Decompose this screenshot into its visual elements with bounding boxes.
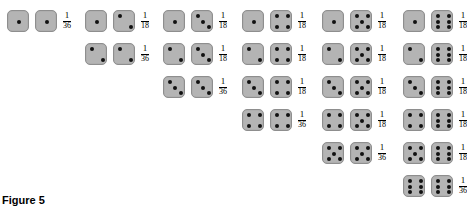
dice-outcome-row: 136: [322, 141, 386, 164]
die-face-1: [85, 10, 107, 32]
fraction-numerator: 1: [459, 110, 467, 121]
probability-fraction: 118: [378, 110, 386, 129]
fraction-denominator: 18: [378, 88, 386, 97]
die-pip: [247, 80, 251, 84]
die-pip: [366, 47, 370, 51]
dice-outcome-row: 118: [242, 9, 306, 32]
dice-outcome-row: 118: [403, 42, 467, 65]
probability-fraction: 136: [459, 176, 467, 195]
fraction-denominator: 18: [459, 154, 467, 163]
die-pip: [286, 80, 290, 84]
die-face-4: [270, 109, 292, 131]
die-pip: [286, 47, 290, 51]
fraction-denominator: 18: [459, 22, 467, 31]
fraction-numerator: 1: [378, 11, 386, 22]
dice-outcome-row: 118: [242, 42, 306, 65]
fraction-numerator: 1: [378, 44, 386, 55]
die-face-3: [191, 76, 213, 98]
die-pip: [252, 20, 256, 24]
die-pip: [179, 58, 183, 62]
fraction-numerator: 1: [141, 11, 149, 22]
die-face-5: [403, 142, 425, 164]
die-pip: [447, 86, 451, 90]
die-pip: [436, 25, 440, 29]
die-pip: [360, 119, 364, 123]
die-pip: [196, 80, 200, 84]
die-face-4: [322, 109, 344, 131]
fraction-denominator: 18: [219, 22, 227, 31]
die-pip: [419, 157, 423, 161]
die-pip: [118, 47, 122, 51]
probability-fraction: 118: [459, 110, 467, 129]
dice-outcome-row: 118: [403, 141, 467, 164]
probability-fraction: 118: [459, 44, 467, 63]
fraction-numerator: 1: [298, 110, 306, 121]
die-pip: [447, 179, 451, 183]
die-face-6: [431, 142, 453, 164]
die-pip: [45, 20, 49, 24]
fraction-denominator: 36: [298, 121, 306, 130]
die-pip: [338, 113, 342, 117]
die-pip: [360, 152, 364, 156]
fraction-numerator: 1: [219, 44, 227, 55]
die-pip: [247, 124, 251, 128]
die-pip: [408, 47, 412, 51]
probability-fraction: 118: [219, 11, 227, 30]
die-pip: [436, 185, 440, 189]
die-pip: [338, 124, 342, 128]
probability-fraction: 118: [378, 11, 386, 30]
die-face-6: [431, 43, 453, 65]
fraction-denominator: 18: [298, 55, 306, 64]
die-pip: [436, 152, 440, 156]
fraction-denominator: 18: [141, 22, 149, 31]
die-pip: [327, 124, 331, 128]
die-pip: [447, 113, 451, 117]
probability-fraction: 136: [63, 11, 71, 30]
die-pip: [436, 124, 440, 128]
die-pip: [355, 14, 359, 18]
die-face-5: [322, 142, 344, 164]
die-pip: [447, 80, 451, 84]
fraction-denominator: 18: [378, 121, 386, 130]
die-pip: [436, 86, 440, 90]
die-face-6: [431, 76, 453, 98]
die-pip: [173, 86, 177, 90]
die-pip: [332, 152, 336, 156]
die-pip: [436, 113, 440, 117]
die-pip: [436, 53, 440, 57]
probability-fraction: 118: [298, 77, 306, 96]
die-pip: [436, 190, 440, 194]
die-pip: [196, 47, 200, 51]
die-pip: [338, 58, 342, 62]
die-pip: [408, 190, 412, 194]
die-pip: [275, 80, 279, 84]
die-pip: [366, 146, 370, 150]
die-face-2: [322, 43, 344, 65]
die-pip: [436, 58, 440, 62]
die-pip: [419, 58, 423, 62]
dice-outcome-row: 118: [242, 75, 306, 98]
die-pip: [408, 157, 412, 161]
die-pip: [447, 53, 451, 57]
die-pip: [258, 91, 262, 95]
die-pip: [419, 185, 423, 189]
fraction-denominator: 18: [459, 121, 467, 130]
fraction-denominator: 36: [459, 187, 467, 196]
die-pip: [355, 113, 359, 117]
die-pip: [355, 124, 359, 128]
die-pip: [366, 14, 370, 18]
die-pip: [247, 47, 251, 51]
die-pip: [275, 58, 279, 62]
dice-outcome-row: 118: [403, 108, 467, 131]
die-pip: [275, 14, 279, 18]
die-face-2: [85, 43, 107, 65]
die-pip: [258, 58, 262, 62]
die-pip: [286, 113, 290, 117]
die-pip: [447, 146, 451, 150]
die-pip: [275, 124, 279, 128]
die-pip: [201, 20, 205, 24]
die-pip: [168, 80, 172, 84]
die-pip: [207, 25, 211, 29]
die-pip: [252, 86, 256, 90]
die-pip: [447, 185, 451, 189]
